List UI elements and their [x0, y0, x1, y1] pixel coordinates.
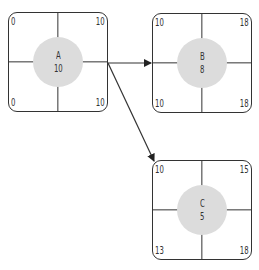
late-start: 13 [155, 245, 164, 256]
activity-name: A [56, 49, 61, 62]
edge-a-to-c [108, 63, 154, 161]
late-finish: 18 [240, 98, 249, 109]
early-start: 10 [155, 164, 164, 175]
activity-duration: 8 [200, 63, 204, 76]
activity-duration: 10 [54, 62, 63, 75]
activity-circle: B 8 [177, 38, 227, 88]
late-finish: 18 [240, 245, 249, 256]
early-start: 10 [155, 17, 164, 28]
activity-name: B [200, 50, 205, 63]
early-finish: 15 [240, 164, 249, 175]
late-finish: 10 [96, 97, 105, 108]
node-a[interactable]: 0 10 0 10 A 10 [8, 12, 108, 112]
node-b[interactable]: 10 18 10 18 B 8 [152, 13, 252, 113]
early-finish: 18 [240, 17, 249, 28]
early-start: 0 [11, 16, 15, 27]
node-c[interactable]: 10 15 13 18 C 5 [152, 160, 252, 260]
early-finish: 10 [96, 16, 105, 27]
activity-circle: A 10 [33, 37, 83, 87]
late-start: 10 [155, 98, 164, 109]
activity-circle: C 5 [177, 185, 227, 235]
activity-name: C [200, 197, 205, 210]
late-start: 0 [11, 97, 15, 108]
activity-duration: 5 [200, 210, 204, 223]
